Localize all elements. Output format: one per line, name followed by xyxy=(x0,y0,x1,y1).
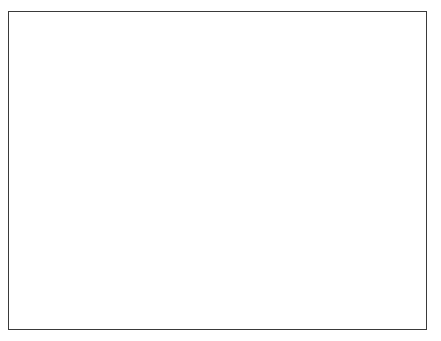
figure-root xyxy=(0,0,441,341)
plot-border-frame xyxy=(8,11,427,330)
